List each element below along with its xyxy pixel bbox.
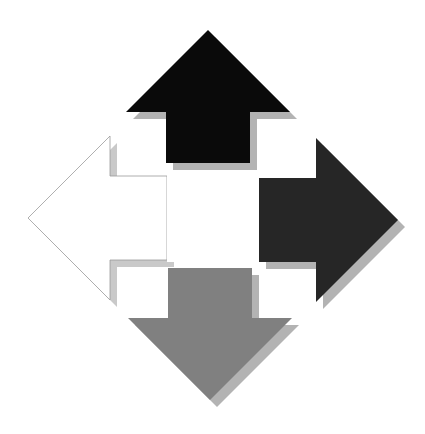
center-gap (167, 170, 252, 262)
arrows-canvas (0, 0, 425, 434)
four-arrows-figure (0, 0, 425, 434)
